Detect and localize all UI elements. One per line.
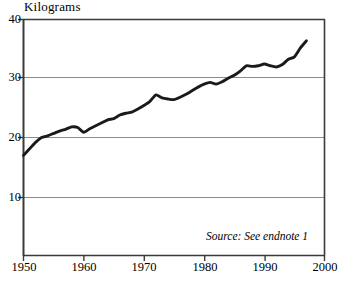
chart-container: Kilograms 40 <box>0 0 341 283</box>
source-note: Source: See endnote 1 <box>206 230 308 242</box>
x-tick-label-1960: 1960 <box>61 261 107 274</box>
x-tick-label-1980: 1980 <box>182 261 228 274</box>
y-tick-text: 40 <box>0 13 21 25</box>
x-tick-label-1950: 1950 <box>1 261 47 274</box>
y-tick-text: 10 <box>0 191 21 203</box>
grid-lines <box>23 78 325 198</box>
data-line-series-0 <box>24 41 307 156</box>
y-tick-text: 30 <box>0 71 21 83</box>
x-tick-label-2000: 2000 <box>302 261 341 274</box>
x-tick-label-1990: 1990 <box>242 261 288 274</box>
y-axis-ticks <box>18 20 23 198</box>
y-tick-text: 20 <box>0 131 21 143</box>
x-tick-label-1970: 1970 <box>121 261 167 274</box>
